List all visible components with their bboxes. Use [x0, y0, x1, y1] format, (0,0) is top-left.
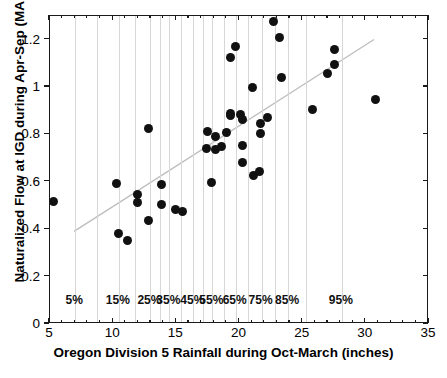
percentile-gridline: [306, 16, 307, 322]
data-point: [133, 198, 142, 207]
percentile-gridline: [248, 16, 249, 322]
y-tick-mark: [44, 133, 49, 134]
percentile-gridline: [193, 16, 194, 322]
x-minor-tick-mark: [263, 320, 264, 323]
x-minor-tick-mark: [390, 320, 391, 323]
y-tick-mark: [44, 275, 49, 276]
percentile-gridline: [135, 16, 136, 322]
x-tick-mark-top: [427, 15, 428, 20]
x-minor-tick-mark-top: [149, 15, 150, 18]
x-minor-tick-mark: [213, 320, 214, 323]
x-tick-mark: [364, 318, 365, 323]
percentile-gridline: [169, 16, 170, 322]
x-minor-tick-mark-top: [276, 15, 277, 18]
percentile-gridline: [288, 16, 289, 322]
data-point: [330, 60, 339, 69]
x-minor-tick-mark: [162, 320, 163, 323]
data-point: [231, 42, 240, 51]
x-tick-mark: [112, 318, 113, 323]
x-minor-tick-mark-top: [99, 15, 100, 18]
data-point: [222, 128, 231, 137]
x-tick-label: 10: [105, 326, 120, 340]
x-tick-mark-top: [48, 15, 49, 20]
percentile-gridline: [212, 16, 213, 322]
x-tick-mark: [238, 318, 239, 323]
percentile-gridline: [342, 16, 343, 322]
x-axis-label: Oregon Division 5 Rainfall during Oct-Ma…: [0, 345, 447, 360]
x-minor-tick-mark-top: [402, 15, 403, 18]
percentile-label: 95%: [329, 294, 353, 306]
plot-area: [49, 15, 428, 323]
x-tick-label: 5: [45, 326, 53, 340]
percentile-gridline: [181, 16, 182, 322]
x-minor-tick-mark: [251, 320, 252, 323]
percentile-label: 65%: [223, 294, 247, 306]
x-tick-mark: [48, 318, 49, 323]
x-minor-tick-mark: [288, 320, 289, 323]
x-minor-tick-mark-top: [74, 15, 75, 18]
data-point: [263, 113, 272, 122]
x-minor-tick-mark-top: [326, 15, 327, 18]
x-minor-tick-mark: [200, 320, 201, 323]
x-minor-tick-mark: [377, 320, 378, 323]
percentile-label: 85%: [275, 294, 299, 306]
figure-scatter-rainfall-vs-flow: 00.20.40.60.811.2 5%15%25%35%45%55%65%75…: [0, 0, 447, 378]
percentile-label: 55%: [199, 294, 223, 306]
percentile-label: 15%: [106, 294, 130, 306]
y-tick-mark-right: [423, 38, 428, 39]
x-minor-tick-mark: [86, 320, 87, 323]
y-tick-mark-right: [423, 133, 428, 134]
x-minor-tick-mark-top: [61, 15, 62, 18]
data-point: [238, 158, 247, 167]
x-tick-label: 15: [168, 326, 183, 340]
percentile-gridline: [275, 16, 276, 322]
percentile-gridline: [236, 16, 237, 322]
data-point: [112, 179, 121, 188]
x-minor-tick-mark: [326, 320, 327, 323]
x-minor-tick-mark-top: [137, 15, 138, 18]
x-minor-tick-mark: [187, 320, 188, 323]
x-minor-tick-mark: [225, 320, 226, 323]
percentile-gridline: [119, 16, 120, 322]
x-minor-tick-mark-top: [187, 15, 188, 18]
data-point: [211, 132, 220, 141]
data-point: [123, 236, 132, 245]
y-tick-mark: [44, 38, 49, 39]
x-tick-mark: [301, 318, 302, 323]
x-minor-tick-mark-top: [377, 15, 378, 18]
x-minor-tick-mark: [74, 320, 75, 323]
trend-line: [50, 16, 427, 322]
y-tick-mark: [44, 180, 49, 181]
percentile-gridline: [75, 16, 76, 322]
percentile-label: 75%: [249, 294, 273, 306]
y-tick-mark-right: [423, 85, 428, 86]
data-point: [144, 216, 153, 225]
x-tick-mark: [175, 318, 176, 323]
data-point: [144, 124, 153, 133]
x-minor-tick-mark-top: [251, 15, 252, 18]
data-point: [157, 200, 166, 209]
x-tick-label: 30: [357, 326, 372, 340]
x-minor-tick-mark: [124, 320, 125, 323]
x-minor-tick-mark: [61, 320, 62, 323]
x-minor-tick-mark-top: [339, 15, 340, 18]
x-minor-tick-mark-top: [314, 15, 315, 18]
x-tick-label: 20: [231, 326, 246, 340]
x-minor-tick-mark-top: [162, 15, 163, 18]
percentile-label: 35%: [156, 294, 180, 306]
x-minor-tick-mark: [314, 320, 315, 323]
percentile-gridline: [97, 16, 98, 322]
x-minor-tick-mark-top: [86, 15, 87, 18]
x-minor-tick-mark: [339, 320, 340, 323]
y-tick-mark-right: [423, 180, 428, 181]
x-tick-mark-top: [301, 15, 302, 20]
percentile-label: 5%: [66, 294, 83, 306]
x-minor-tick-mark: [137, 320, 138, 323]
x-minor-tick-mark-top: [352, 15, 353, 18]
x-minor-tick-mark: [276, 320, 277, 323]
x-minor-tick-mark: [415, 320, 416, 323]
percentile-gridline: [203, 16, 204, 322]
data-point: [255, 167, 264, 176]
x-minor-tick-mark-top: [124, 15, 125, 18]
x-minor-tick-mark: [149, 320, 150, 323]
